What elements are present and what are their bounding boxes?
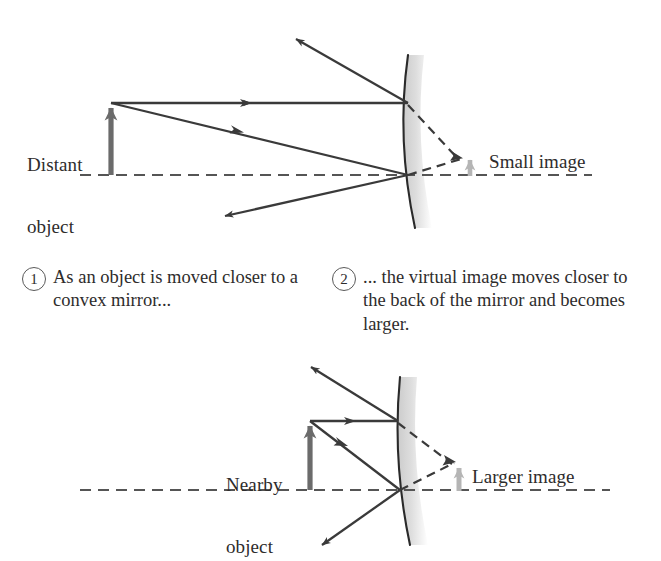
label-small-image: Small image	[489, 152, 586, 173]
reflected-ray-upper-bottom	[311, 367, 398, 421]
incident-ray-vertex-bottom	[310, 421, 400, 490]
step-badge-2: 2	[332, 267, 356, 291]
label-distant-object-line2: object	[27, 217, 83, 238]
reflected-ray-upper-top	[296, 39, 408, 103]
mirror-shading-bottom	[398, 377, 428, 545]
step-badge-1: 1	[22, 267, 46, 291]
virtual-ray-lower-bottom-arrowhead	[443, 455, 457, 466]
label-nearby-object: Nearby object	[226, 434, 283, 561]
label-nearby-object-line2: object	[226, 537, 283, 558]
label-nearby-object-line1: Nearby	[226, 475, 283, 496]
reflected-ray-lower-top	[225, 175, 408, 216]
bottom-panel-group	[80, 367, 610, 545]
label-distant-object: Distant object	[27, 114, 83, 278]
label-distant-object-line1: Distant	[27, 155, 83, 176]
reflected-ray-lower-bottom	[322, 490, 400, 545]
caption-step-1: 1 As an object is moved closer to a conv…	[22, 266, 322, 313]
label-larger-image: Larger image	[472, 467, 575, 488]
caption-step-1-text: As an object is moved closer to a convex…	[53, 266, 322, 313]
incident-ray-vertex-top-arrowhead	[230, 125, 245, 133]
caption-step-2: 2 ... the virtual image moves closer to …	[332, 266, 652, 336]
mirror-shading-top	[403, 55, 432, 228]
caption-step-2-text: ... the virtual image moves closer to th…	[363, 266, 652, 336]
top-panel-group	[80, 39, 592, 228]
incident-ray-vertex-top	[111, 103, 408, 175]
